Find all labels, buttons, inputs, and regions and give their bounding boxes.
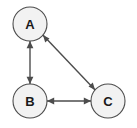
edge-b-c-arrowhead-at-b — [47, 98, 54, 105]
node-a-label: A — [25, 17, 35, 32]
edge-a-b-arrowhead-at-b — [27, 77, 34, 84]
edge-a-c-line — [43, 35, 95, 90]
edge-a-b-arrowhead-at-a — [27, 41, 34, 48]
edge-a-c — [43, 35, 95, 90]
edge-b-c-arrowhead-at-c — [84, 98, 91, 105]
node-c[interactable]: C — [91, 84, 125, 118]
node-b[interactable]: B — [13, 84, 47, 118]
node-a[interactable]: A — [13, 7, 47, 41]
node-b-label: B — [25, 94, 34, 109]
graph-diagram: A B C — [0, 0, 137, 128]
edge-a-b — [27, 41, 34, 84]
edge-b-c — [47, 98, 91, 105]
node-c-label: C — [103, 94, 113, 109]
